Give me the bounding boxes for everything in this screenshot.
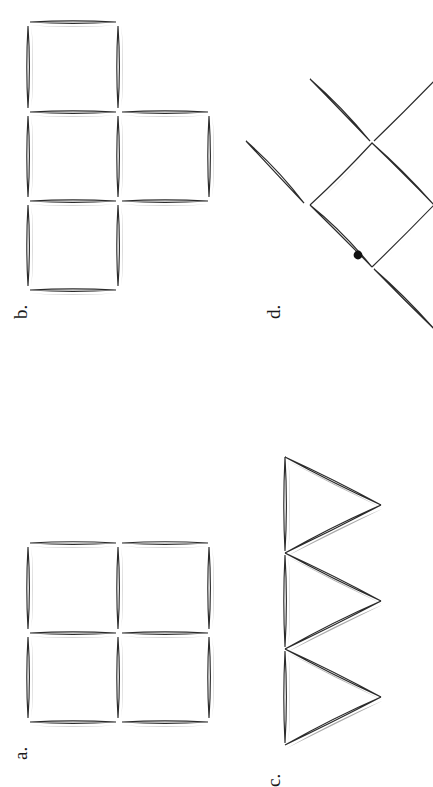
matchstick-vertical (27, 637, 33, 718)
matchstick-vertical (284, 457, 290, 551)
matchstick-vertical (208, 116, 214, 197)
matchstick-horizontal (30, 289, 116, 295)
matchstick-horizontal (30, 721, 116, 727)
panel-b: b. (0, 0, 220, 340)
matchstick-group-b (27, 21, 214, 295)
matchstick-diagonal (285, 505, 383, 556)
matchstick-horizontal (30, 542, 116, 548)
matchstick-diagonal (285, 601, 383, 652)
panel-b-figure (0, 0, 220, 340)
panel-label-c: c. (264, 774, 283, 787)
matchstick-horizontal (30, 632, 116, 638)
matchstick-horizontal (30, 21, 116, 27)
matchstick-vertical (208, 637, 214, 718)
matchstick-vertical (117, 116, 123, 197)
dot-marker (354, 251, 363, 260)
matchstick-vertical (117, 637, 123, 718)
panel-c: c. (220, 441, 433, 781)
matchstick-group-a (27, 542, 214, 727)
panel-a: a. (0, 441, 220, 781)
matchstick-vertical (27, 26, 33, 108)
panel-a-figure (0, 441, 220, 781)
panel-c-figure (220, 441, 433, 781)
matchstick-diagonal (372, 205, 433, 270)
matchstick-vertical (117, 26, 123, 108)
matchstick-horizontal (30, 200, 116, 206)
matchstick-vertical (27, 116, 33, 197)
matchstick-diagonal (310, 143, 372, 208)
matchstick-horizontal (122, 111, 208, 117)
panel-d-figure (220, 0, 433, 340)
panel-label-a: a. (11, 747, 30, 760)
matchstick-vertical (284, 555, 290, 647)
panel-d: d. (220, 0, 433, 340)
matchstick-vertical (284, 651, 290, 743)
panel-label-d: d. (264, 305, 283, 319)
matchstick-horizontal (30, 111, 116, 117)
matchstick-horizontal (122, 200, 208, 206)
matchstick-diagonal (285, 649, 383, 700)
matchstick-diagonal (285, 697, 383, 748)
matchstick-vertical (117, 205, 123, 286)
matchstick-diagonal (310, 79, 373, 144)
matchstick-diagonal (372, 143, 433, 208)
matchstick-vertical (27, 547, 33, 629)
panel-label-b: b. (11, 305, 30, 319)
matchstick-horizontal (122, 632, 208, 638)
matchstick-diagonal (374, 269, 433, 334)
matchstick-diagonal (310, 205, 375, 270)
matchstick-horizontal (122, 721, 208, 727)
matchstick-diagonal (285, 457, 383, 508)
matchstick-vertical (117, 547, 123, 629)
matchstick-diagonal (246, 141, 307, 206)
matchstick-diagonal (285, 553, 383, 604)
matchstick-group-d (246, 79, 433, 334)
matchstick-group-c (284, 457, 383, 748)
matchstick-vertical (27, 205, 33, 286)
matchstick-diagonal (374, 79, 433, 144)
matchstick-horizontal (122, 542, 208, 548)
matchstick-vertical (208, 547, 214, 629)
